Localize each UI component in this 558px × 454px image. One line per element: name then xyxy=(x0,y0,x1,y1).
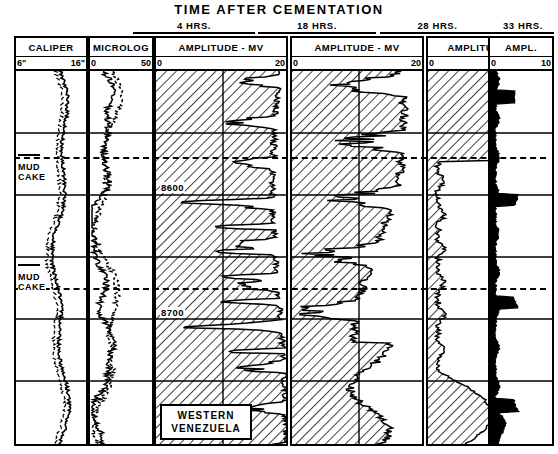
time-label-3: 33 HRS. xyxy=(492,20,554,34)
mud-cake-tick-0 xyxy=(18,154,40,156)
scale-min-amp4: 0 xyxy=(157,58,162,68)
hatch-fill-amp4 xyxy=(156,71,286,444)
track-amp33: AMPL.010 xyxy=(488,36,554,446)
depth-label-8700: 8700 xyxy=(160,307,185,318)
track-scale-microlog: 050 xyxy=(90,57,152,71)
track-plot-amp18 xyxy=(292,71,422,444)
curve-microlog xyxy=(90,71,152,444)
curve-caliper xyxy=(16,71,86,444)
correlation-line-0 xyxy=(14,157,546,159)
track-amp4: AMPLITUDE - MV020 xyxy=(154,36,288,446)
scale-min-amp28: 0 xyxy=(429,58,434,68)
time-label-2: 28 HRS. xyxy=(380,20,495,34)
log-figure: TIME AFTER CEMENTATION 4 HRS.18 HRS.28 H… xyxy=(0,0,558,454)
depth-label-8600: 8600 xyxy=(160,182,185,193)
track-header-microlog: MICROLOG xyxy=(90,38,152,57)
mud-cake-line2: CAKE xyxy=(18,282,46,292)
curve-amp33 xyxy=(490,71,552,444)
scale-max-caliper: 16" xyxy=(71,58,85,68)
mud-cake-label-0: MUDCAKE xyxy=(18,162,46,182)
track-caliper: CALIPER6"16" xyxy=(14,36,88,446)
mud-cake-line1: MUD xyxy=(18,162,46,172)
scale-max-amp33: 10 xyxy=(541,58,551,68)
correlation-line-1 xyxy=(14,288,546,290)
page-title: TIME AFTER CEMENTATION xyxy=(0,2,558,17)
track-plot-amp33 xyxy=(490,71,552,444)
scale-min-amp33: 0 xyxy=(491,58,496,68)
time-label-0: 4 HRS. xyxy=(133,20,255,34)
track-header-caliper: CALIPER xyxy=(16,38,86,57)
location-line2: VENEZUELA xyxy=(166,422,246,435)
location-line1: WESTERN xyxy=(166,409,246,422)
scale-max-microlog: 50 xyxy=(141,58,151,68)
track-scale-caliper: 6"16" xyxy=(16,57,86,71)
track-header-amp18: AMPLITUDE - MV xyxy=(292,38,422,57)
track-header-amp4: AMPLITUDE - MV xyxy=(156,38,286,57)
track-amp18: AMPLITUDE - MV020 xyxy=(290,36,424,446)
scale-min-amp18: 0 xyxy=(293,58,298,68)
scale-min-caliper: 6" xyxy=(17,58,26,68)
mud-cake-line1: MUD xyxy=(18,272,46,282)
scale-max-amp18: 20 xyxy=(411,58,421,68)
track-scale-amp18: 020 xyxy=(292,57,422,71)
mud-cake-tick-1 xyxy=(18,264,40,266)
location-box: WESTERNVENEZUELA xyxy=(160,404,252,440)
mud-cake-line2: CAKE xyxy=(18,172,46,182)
curve-amp18 xyxy=(292,71,422,444)
track-plot-amp4 xyxy=(156,71,286,444)
track-plot-caliper xyxy=(16,71,86,444)
track-scale-amp4: 020 xyxy=(156,57,286,71)
scale-max-amp4: 20 xyxy=(275,58,285,68)
mud-cake-label-1: MUDCAKE xyxy=(18,272,46,292)
track-microlog: MICROLOG050 xyxy=(88,36,154,446)
track-header-amp33: AMPL. xyxy=(490,38,552,57)
track-plot-microlog xyxy=(90,71,152,444)
time-label-1: 18 HRS. xyxy=(258,20,376,34)
scale-min-microlog: 0 xyxy=(91,58,96,68)
track-scale-amp33: 010 xyxy=(490,57,552,71)
curve-amp4 xyxy=(156,71,286,444)
